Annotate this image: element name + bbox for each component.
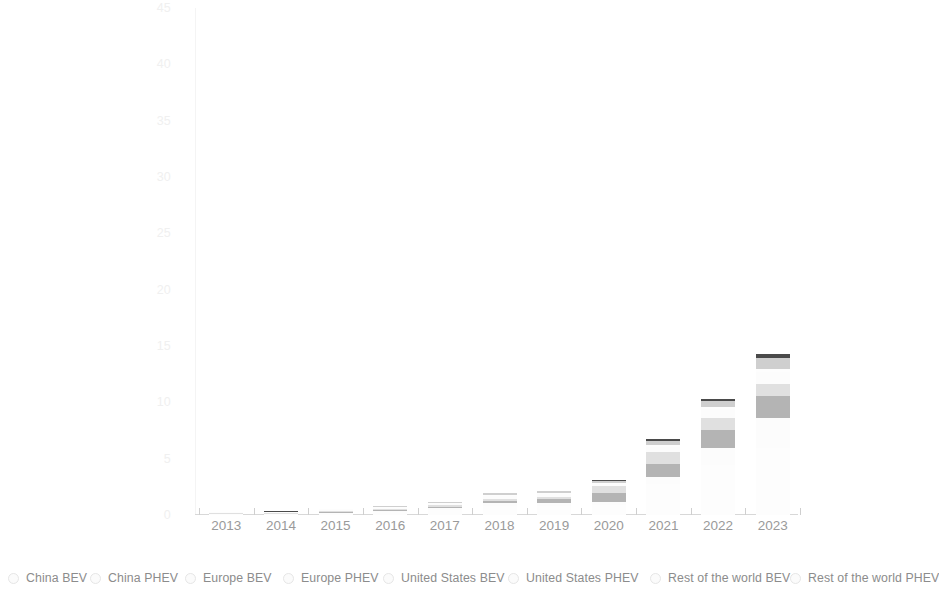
legend-item[interactable]: China BEV: [8, 571, 87, 585]
legend-item-label: China PHEV: [108, 571, 178, 585]
y-axis-tick-label: 0: [164, 508, 171, 522]
bar-segment[interactable]: [646, 464, 680, 477]
x-axis-label-2018: 2018: [484, 518, 514, 533]
chart-legend: China BEVChina PHEVEurope BEVEurope PHEV…: [0, 565, 931, 591]
legend-item-label: China BEV: [26, 571, 87, 585]
x-axis-tickmark: [418, 508, 419, 515]
bar-segment[interactable]: [756, 448, 790, 515]
bar-segment[interactable]: [428, 510, 462, 515]
bar-stack[interactable]: [483, 493, 517, 515]
y-axis-tick-label: 40: [157, 57, 171, 71]
x-axis-label-2016: 2016: [375, 518, 405, 533]
x-axis-label-2023: 2023: [758, 518, 788, 533]
bar-segment[interactable]: [646, 484, 680, 515]
legend-item[interactable]: Europe PHEV: [283, 571, 379, 585]
bar-segment[interactable]: [756, 372, 790, 384]
bar-stack[interactable]: [701, 399, 735, 515]
bars-layer: [185, 8, 800, 515]
bar-stack[interactable]: [264, 511, 298, 515]
legend-item[interactable]: China PHEV: [90, 571, 178, 585]
x-axis-tickmark: [800, 508, 801, 515]
legend-item-label: Rest of the world BEV: [668, 571, 790, 585]
bar-segment[interactable]: [209, 514, 243, 515]
x-axis-label-2019: 2019: [539, 518, 569, 533]
x-axis-tickmark: [691, 508, 692, 515]
bar-segment[interactable]: [592, 493, 626, 501]
bar-segment[interactable]: [701, 465, 735, 515]
y-axis-tick-label: 15: [157, 339, 171, 353]
x-axis-label-2015: 2015: [321, 518, 351, 533]
bar-segment[interactable]: [756, 418, 790, 448]
y-axis-tick-label: 25: [157, 226, 171, 240]
bar-stack[interactable]: [209, 512, 243, 515]
bar-segment[interactable]: [646, 477, 680, 484]
circle-marker-icon: [383, 573, 394, 584]
legend-item-label: Europe PHEV: [301, 571, 379, 585]
x-axis-label-2020: 2020: [594, 518, 624, 533]
y-axis-tick-label: 30: [157, 170, 171, 184]
bar-stack[interactable]: [592, 480, 626, 515]
x-axis-tickmark: [199, 508, 200, 515]
legend-item[interactable]: United States BEV: [383, 571, 505, 585]
legend-item[interactable]: Europe BEV: [185, 571, 272, 585]
bar-segment[interactable]: [646, 452, 680, 464]
bar-segment[interactable]: [701, 409, 735, 418]
y-axis-tick-label: 10: [157, 395, 171, 409]
circle-marker-icon: [283, 573, 294, 584]
x-axis-tickmark: [581, 508, 582, 515]
bar-stack[interactable]: [319, 508, 353, 515]
bar-segment[interactable]: [373, 512, 407, 515]
circle-marker-icon: [8, 573, 19, 584]
bar-stack[interactable]: [756, 354, 790, 515]
bar-segment[interactable]: [264, 514, 298, 515]
bar-stack[interactable]: [646, 439, 680, 515]
legend-item[interactable]: United States PHEV: [508, 571, 639, 585]
y-axis-tick-label: 45: [157, 1, 171, 15]
bar-stack[interactable]: [537, 491, 571, 515]
x-axis-tickmark: [745, 508, 746, 515]
circle-marker-icon: [650, 573, 661, 584]
x-axis-tickmark: [472, 508, 473, 515]
legend-item-label: Rest of the world PHEV: [808, 571, 939, 585]
x-axis-tickmark: [636, 508, 637, 515]
circle-marker-icon: [790, 573, 801, 584]
x-axis-tickmark: [308, 508, 309, 515]
legend-item[interactable]: Rest of the world BEV: [650, 571, 790, 585]
circle-marker-icon: [90, 573, 101, 584]
x-axis-labels: 2013201420152016201720182019202020212022…: [185, 518, 800, 544]
bar-segment[interactable]: [592, 486, 626, 493]
bar-segment[interactable]: [592, 505, 626, 515]
x-axis-label-2022: 2022: [703, 518, 733, 533]
bar-segment[interactable]: [756, 384, 790, 395]
x-axis-label-2021: 2021: [648, 518, 678, 533]
circle-marker-icon: [185, 573, 196, 584]
x-axis-tickmark: [527, 508, 528, 515]
x-axis-tickmark: [363, 508, 364, 515]
circle-marker-icon: [508, 573, 519, 584]
bar-segment[interactable]: [701, 418, 735, 430]
y-axis-tick-label: 35: [157, 114, 171, 128]
bar-stack[interactable]: [373, 506, 407, 515]
y-axis-tick-label: 5: [164, 452, 171, 466]
bar-segment[interactable]: [483, 506, 517, 515]
x-axis-label-2017: 2017: [430, 518, 460, 533]
legend-item-label: United States BEV: [401, 571, 505, 585]
bar-segment[interactable]: [701, 430, 735, 448]
bar-stack[interactable]: [428, 502, 462, 515]
bar-segment[interactable]: [701, 448, 735, 465]
legend-item-label: United States PHEV: [526, 571, 639, 585]
legend-item-label: Europe BEV: [203, 571, 272, 585]
bar-segment[interactable]: [319, 513, 353, 515]
bar-segment[interactable]: [537, 506, 571, 515]
legend-item[interactable]: Rest of the world PHEV: [790, 571, 939, 585]
x-axis-label-2014: 2014: [266, 518, 296, 533]
y-axis-tick-label: 20: [157, 283, 171, 297]
plot-area: 051015202530354045: [185, 8, 800, 515]
x-axis-tickmark: [254, 508, 255, 515]
x-axis-label-2013: 2013: [211, 518, 241, 533]
bar-segment[interactable]: [756, 396, 790, 418]
bar-segment[interactable]: [756, 358, 790, 368]
